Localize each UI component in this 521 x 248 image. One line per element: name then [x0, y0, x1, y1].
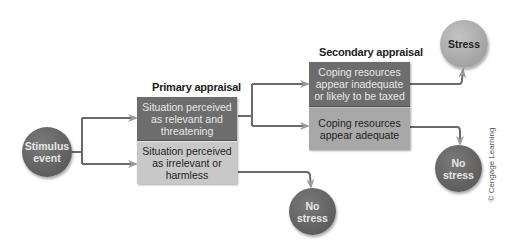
no-stress-bottom-line2: stress [297, 212, 328, 224]
stress-node: Stress [440, 20, 488, 68]
coping-inadequate-box: Coping resources appear inadequate or li… [309, 62, 410, 107]
stimulus-line2: event [25, 152, 69, 164]
secondary-appraisal-label: Secondary appraisal [319, 46, 423, 58]
no-stress-right-line2: stress [443, 169, 474, 181]
primary-appraisal-label: Primary appraisal [152, 81, 241, 93]
no-stress-bottom-line1: No [297, 200, 328, 212]
copyright-credit: © Cengage Learning [487, 125, 496, 205]
stress-appraisal-diagram: Primary appraisal Secondary appraisal St… [0, 0, 521, 248]
stimulus-line1: Stimulus [25, 140, 69, 152]
relevant-threatening-box: Situation perceived as relevant and thre… [137, 97, 237, 141]
stimulus-event-node: Stimulus event [22, 127, 72, 177]
no-stress-node-right: No stress [435, 145, 482, 192]
no-stress-node-bottom: No stress [289, 188, 336, 235]
irrelevant-harmless-box: Situation perceived as irrelevant or har… [137, 141, 237, 184]
coping-adequate-box: Coping resources appear adequate [309, 107, 410, 150]
no-stress-right-line1: No [443, 157, 474, 169]
